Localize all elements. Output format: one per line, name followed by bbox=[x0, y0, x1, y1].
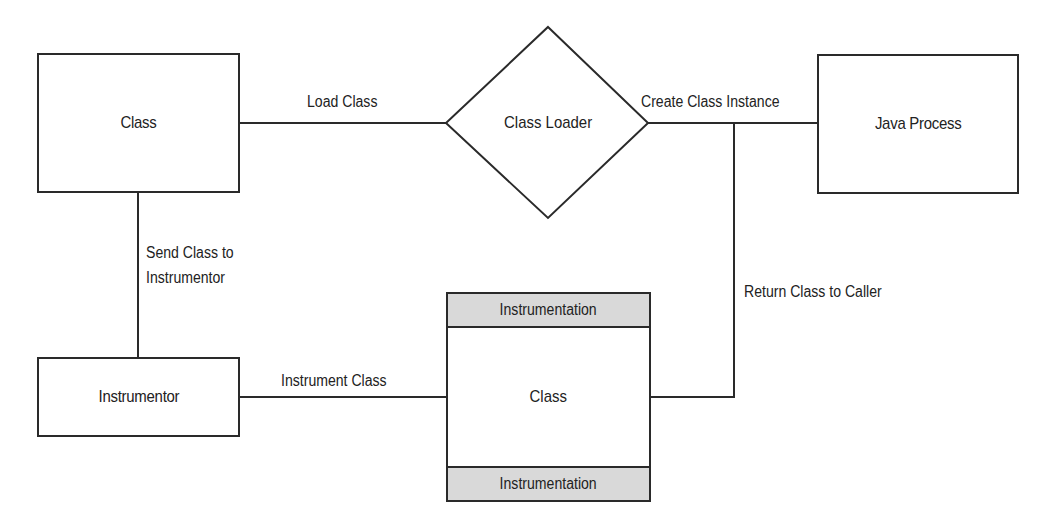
edge-label-return-to-caller: Return Class to Caller bbox=[744, 279, 901, 304]
class-loader-node: Class Loader bbox=[466, 108, 630, 138]
instrumented-class-core: Class bbox=[448, 328, 649, 466]
class-node: Class bbox=[37, 53, 240, 193]
instrumented-class-node: Instrumentation Class Instrumentation bbox=[446, 292, 651, 502]
class-loader-label: Class Loader bbox=[504, 113, 592, 133]
instrumentor-label: Instrumentor bbox=[98, 387, 179, 407]
instrumentor-node: Instrumentor bbox=[37, 357, 240, 437]
edge-return-to-caller bbox=[650, 123, 734, 397]
instrumentation-band-top: Instrumentation bbox=[448, 294, 649, 328]
instrumented-class-label: Class bbox=[530, 387, 567, 407]
edge-label-send-line1: Send Class to bbox=[146, 240, 246, 265]
instrumentation-bottom-label: Instrumentation bbox=[500, 475, 597, 493]
edge-label-instrument-class: Instrument Class bbox=[281, 368, 401, 393]
edge-label-send-line2: Instrumentor bbox=[146, 265, 236, 290]
diagram-canvas: Class Class Loader Java Process Instrume… bbox=[0, 0, 1048, 521]
class-node-label: Class bbox=[120, 113, 156, 133]
java-process-node: Java Process bbox=[817, 54, 1019, 194]
edge-label-create-instance: Create Class Instance bbox=[641, 89, 798, 114]
instrumentation-band-bottom: Instrumentation bbox=[448, 466, 649, 500]
edge-label-load-class: Load Class bbox=[307, 89, 387, 114]
instrumentation-top-label: Instrumentation bbox=[500, 301, 597, 319]
java-process-label: Java Process bbox=[875, 114, 962, 134]
